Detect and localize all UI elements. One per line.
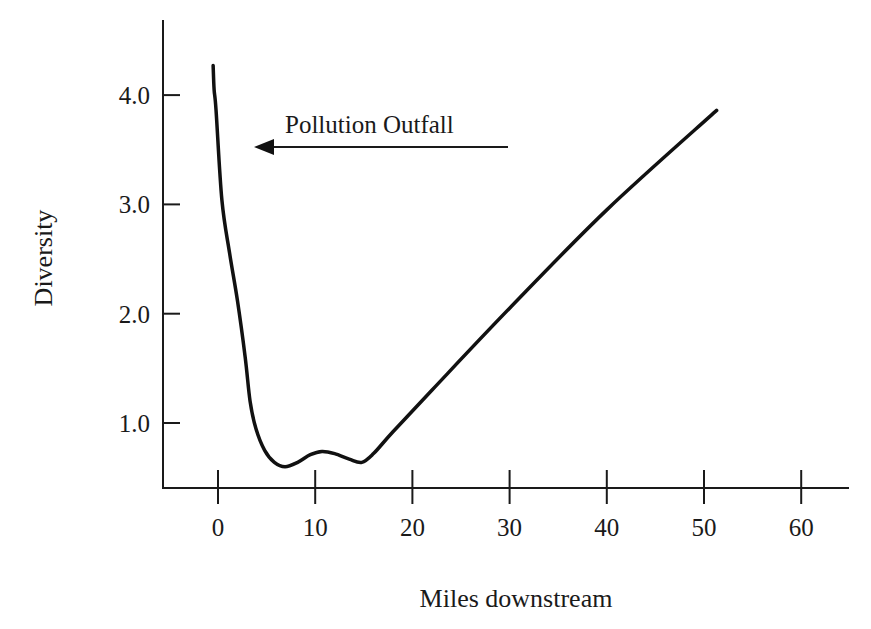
y-tick-label: 1.0 xyxy=(119,410,150,437)
x-axis-label: Miles downstream xyxy=(420,584,613,613)
x-tick-label: 40 xyxy=(594,514,619,541)
x-tick-label: 30 xyxy=(497,514,522,541)
y-tick-label: 3.0 xyxy=(119,191,150,218)
chart: 1.02.03.04.0 0102030405060 Diversity Mil… xyxy=(0,0,871,629)
x-tick-label: 50 xyxy=(692,514,717,541)
x-tick-label: 10 xyxy=(303,514,328,541)
annotation-pollution-outfall: Pollution Outfall xyxy=(254,111,508,155)
y-axis-label: Diversity xyxy=(29,210,58,307)
y-tick-label: 4.0 xyxy=(119,82,150,109)
x-ticks: 0102030405060 xyxy=(212,470,814,541)
annotation-label: Pollution Outfall xyxy=(285,111,454,138)
y-tick-label: 2.0 xyxy=(119,301,150,328)
arrow-left-icon xyxy=(254,139,274,155)
x-tick-label: 60 xyxy=(789,514,814,541)
y-ticks: 1.02.03.04.0 xyxy=(119,82,180,437)
x-tick-label: 0 xyxy=(212,514,225,541)
x-tick-label: 20 xyxy=(400,514,425,541)
